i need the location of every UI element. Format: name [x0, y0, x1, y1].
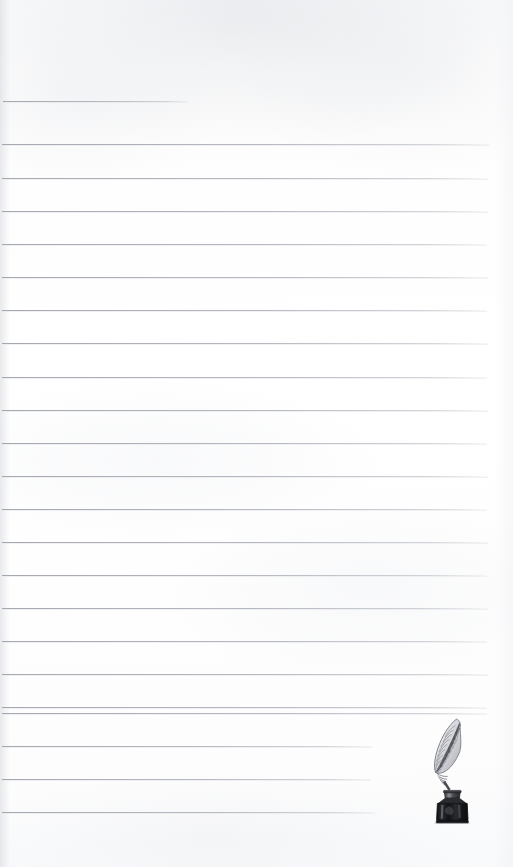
- ruled-line: [3, 101, 188, 102]
- ruled-line: [2, 812, 375, 813]
- ruled-line: [2, 377, 487, 378]
- ruled-line: [2, 343, 488, 344]
- ink-bottle-highlight-left: [441, 805, 444, 819]
- ruled-line: [2, 277, 488, 278]
- ruled-line: [2, 641, 487, 642]
- ruled-line: [2, 476, 488, 477]
- ruled-line: [2, 410, 488, 411]
- ink-bottle-shoulder: [438, 798, 467, 803]
- scan-edge-shadow-right: [495, 0, 513, 867]
- ruled-line: [2, 211, 488, 212]
- ruled-line: [2, 509, 487, 510]
- quill-and-inkwell-icon: [425, 716, 487, 824]
- ink-bottle-body: [437, 803, 468, 821]
- ink-bottle-neck: [444, 792, 460, 798]
- feather-barbs-lower: [437, 729, 458, 775]
- feather-barbs-upper: [435, 726, 455, 770]
- ruled-line: [2, 746, 372, 747]
- ruled-line: [2, 310, 487, 311]
- ruled-line: [2, 674, 488, 675]
- ink-bottle-highlight-right: [458, 805, 461, 818]
- ruled-line: [2, 144, 489, 145]
- ink-bottle-base: [436, 820, 468, 823]
- feather-quill-tip: [443, 781, 451, 790]
- ruled-line: [2, 178, 488, 179]
- feather-vane-lower: [436, 728, 461, 773]
- ruled-line: [2, 608, 488, 609]
- ruled-line: [2, 542, 488, 543]
- ruled-line: [2, 244, 487, 245]
- feather-shaft: [436, 723, 460, 774]
- quill-and-inkwell-illustration: [425, 716, 487, 824]
- ruled-line: [2, 713, 487, 714]
- feather-dark-accents: [440, 742, 454, 768]
- feather-group: [435, 719, 461, 790]
- ink-bottle-ink-sheen: [445, 806, 454, 815]
- scan-edge-shadow-left: [0, 0, 10, 867]
- inkwell-group: [434, 790, 470, 824]
- feather-vane-upper: [435, 719, 461, 773]
- ruled-line: [2, 575, 487, 576]
- ruled-line: [2, 707, 487, 708]
- ink-bottle-collar-rim: [443, 790, 461, 792]
- ink-bottle-shadow: [434, 822, 470, 824]
- notepaper-page: [0, 0, 513, 867]
- ruled-line: [2, 443, 487, 444]
- ruled-line: [2, 779, 371, 780]
- feather-tip-tuft: [437, 773, 448, 785]
- paper-texture: [0, 0, 513, 867]
